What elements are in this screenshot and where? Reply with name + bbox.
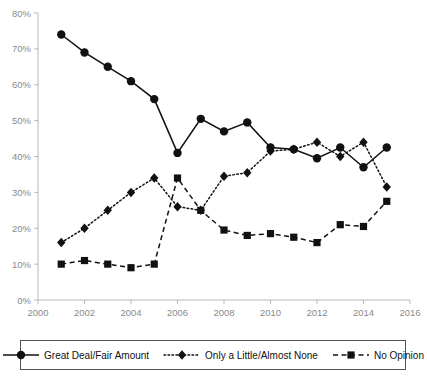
y-axis-tick-label: 20% xyxy=(12,223,32,234)
data-point-marker xyxy=(383,143,391,151)
legend-symbol xyxy=(178,350,186,360)
data-point-marker xyxy=(127,264,134,271)
data-point-marker xyxy=(104,261,111,268)
legend-item[interactable]: Only a Little/Almost None xyxy=(163,348,318,362)
data-point-marker xyxy=(290,145,298,155)
legend-marker-icon xyxy=(332,348,370,362)
data-point-marker xyxy=(360,223,367,230)
y-axis-tick-label: 40% xyxy=(12,151,32,162)
data-point-marker xyxy=(80,224,88,234)
x-axis-tick-label: 2016 xyxy=(399,307,420,318)
data-point-marker xyxy=(383,198,390,205)
data-point-marker xyxy=(197,207,204,214)
data-point-marker xyxy=(336,152,344,162)
data-point-marker xyxy=(57,238,65,248)
data-point-marker xyxy=(151,261,158,268)
data-point-marker xyxy=(383,182,391,192)
data-point-marker xyxy=(336,143,344,151)
data-point-marker xyxy=(267,230,274,237)
chart-plot-area: 0%10%20%30%40%50%60%70%80% 2000200220042… xyxy=(0,0,427,330)
data-point-marker xyxy=(244,232,251,239)
x-axis-tick-group: 200020022004200620082010201220142016 xyxy=(27,300,420,318)
data-point-marker xyxy=(220,171,228,181)
data-point-marker xyxy=(359,137,367,147)
data-point-marker xyxy=(243,168,251,178)
y-axis-tick-label: 80% xyxy=(12,8,32,19)
chart-legend: Great Deal/Fair AmountOnly a Little/Almo… xyxy=(20,340,406,370)
x-axis-tick-label: 2004 xyxy=(120,307,141,318)
data-point-marker xyxy=(81,257,88,264)
data-point-marker xyxy=(197,115,205,123)
data-point-marker xyxy=(220,226,227,233)
chart-page: 0%10%20%30%40%50%60%70%80% 2000200220042… xyxy=(0,0,427,379)
x-axis-tick-label: 2006 xyxy=(167,307,188,318)
y-axis-tick-label: 10% xyxy=(12,259,32,270)
x-axis-tick-label: 2010 xyxy=(260,307,281,318)
data-point-marker xyxy=(57,30,65,38)
legend-marker-icon xyxy=(163,348,201,362)
y-axis-tick-label: 30% xyxy=(12,187,32,198)
data-point-marker xyxy=(243,118,251,126)
legend-item-label: Great Deal/Fair Amount xyxy=(44,350,149,361)
data-point-marker xyxy=(150,95,158,103)
data-point-marker xyxy=(313,137,321,147)
data-point-marker xyxy=(359,163,367,171)
legend-item[interactable]: Great Deal/Fair Amount xyxy=(2,348,149,362)
data-point-marker xyxy=(220,127,228,135)
legend-item-label: No Opinion xyxy=(374,350,424,361)
y-axis-tick-label: 60% xyxy=(12,79,32,90)
series-marker-group xyxy=(57,30,391,271)
data-point-marker xyxy=(104,206,112,216)
legend-symbol xyxy=(347,351,354,358)
x-axis-tick-label: 2012 xyxy=(306,307,327,318)
data-point-marker xyxy=(313,154,321,162)
legend-item[interactable]: No Opinion xyxy=(332,348,424,362)
x-axis-tick-label: 2008 xyxy=(213,307,234,318)
data-point-marker xyxy=(104,63,112,71)
y-axis-tick-label: 0% xyxy=(17,295,31,306)
data-point-marker xyxy=(58,261,65,268)
data-point-marker xyxy=(174,174,181,181)
data-point-marker xyxy=(173,149,181,157)
data-point-marker xyxy=(337,221,344,228)
x-axis-tick-label: 2014 xyxy=(353,307,374,318)
y-axis-tick-label: 50% xyxy=(12,115,32,126)
data-point-marker xyxy=(290,234,297,241)
x-axis-tick-label: 2002 xyxy=(74,307,95,318)
x-axis-tick-label: 2000 xyxy=(27,307,48,318)
data-point-marker xyxy=(80,48,88,56)
data-point-marker xyxy=(127,188,135,198)
legend-symbol xyxy=(17,351,25,359)
legend-item-label: Only a Little/Almost None xyxy=(205,350,318,361)
y-axis-tick-label: 70% xyxy=(12,43,32,54)
y-axis-tick-group: 0%10%20%30%40%50%60%70%80% xyxy=(12,8,38,306)
line-chart-svg: 0%10%20%30%40%50%60%70%80% 2000200220042… xyxy=(0,0,427,330)
data-point-marker xyxy=(127,77,135,85)
legend-marker-icon xyxy=(2,348,40,362)
data-point-marker xyxy=(313,239,320,246)
